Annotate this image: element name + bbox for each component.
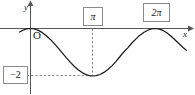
y-axis-arrowhead [28, 1, 34, 7]
x-axis-label: x [183, 30, 187, 39]
cosine-curve [20, 29, 187, 77]
x-tick-label-two-pi: 2π [143, 3, 170, 22]
y-tick-label-minus-two: −2 [3, 66, 28, 84]
x-tick-label-pi: π [83, 7, 103, 26]
origin-label: O [33, 30, 41, 41]
x-axis-arrowhead [188, 26, 194, 32]
y-axis-label: y [24, 3, 28, 12]
cosine-graph-figure: y x O π 2π −2 [0, 0, 195, 94]
y-axis [28, 1, 34, 95]
